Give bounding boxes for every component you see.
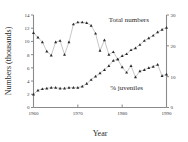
y-tick-label: 10 xyxy=(25,39,31,44)
chart-canvas: 02468101214 0102030 1960197019801990 Tot… xyxy=(0,0,188,142)
series-2 xyxy=(32,26,168,95)
data-point xyxy=(112,50,115,53)
x-axis-title: Year xyxy=(93,129,108,138)
y-tick-label: 12 xyxy=(25,26,31,31)
y-axis-right-ticks: 0102030 xyxy=(167,13,177,111)
data-point xyxy=(156,63,159,66)
axes-group xyxy=(34,15,167,108)
y-tick-label: 4 xyxy=(27,79,30,84)
x-tick-label: 1980 xyxy=(117,111,128,116)
data-point xyxy=(165,26,168,29)
series-line xyxy=(34,28,167,95)
series-annotation-2: % juveniles xyxy=(110,84,143,92)
y-tick-label-right: 20 xyxy=(171,44,177,49)
series-1 xyxy=(32,21,168,79)
chart-figure: 02468101214 0102030 1960197019801990 Tot… xyxy=(0,0,188,142)
data-point xyxy=(32,31,35,34)
y-tick-label: 2 xyxy=(27,92,30,97)
data-point xyxy=(165,73,168,76)
x-axis-ticks: 1960197019801990 xyxy=(29,105,173,116)
y-tick-label: 6 xyxy=(27,66,30,71)
x-tick-label: 1970 xyxy=(73,111,84,116)
data-point xyxy=(103,39,106,42)
data-point xyxy=(99,49,102,52)
data-point xyxy=(67,40,70,43)
series-layer xyxy=(32,21,168,96)
y-axis-title: Numbers (thousands) xyxy=(4,26,13,95)
y-tick-label-right: 30 xyxy=(171,13,177,18)
series-annotation-1: Total numbers xyxy=(109,16,149,24)
y-axis-left-ticks: 02468101214 xyxy=(25,13,34,111)
y-tick-label: 14 xyxy=(25,13,31,18)
data-point xyxy=(63,53,66,56)
data-point xyxy=(59,39,62,42)
data-point xyxy=(130,64,133,67)
data-point xyxy=(45,50,48,53)
y-tick-label-right: 10 xyxy=(171,75,177,80)
x-tick-label: 1990 xyxy=(162,111,173,116)
y-tick-label: 8 xyxy=(27,53,30,58)
x-tick-label: 1960 xyxy=(29,111,40,116)
